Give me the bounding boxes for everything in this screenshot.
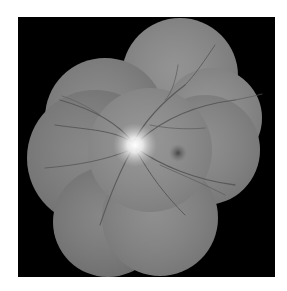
macula: [169, 144, 187, 162]
optic-disc: [113, 123, 157, 167]
fundus-montage: [0, 0, 287, 291]
